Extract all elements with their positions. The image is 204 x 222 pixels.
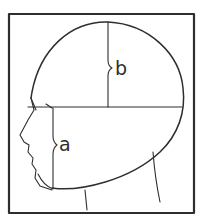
diagram-canvas: b a [0, 0, 204, 222]
label-b: b [115, 57, 127, 79]
brow-line [31, 98, 52, 110]
b-brace [108, 22, 112, 107]
label-a: a [59, 133, 71, 155]
a-brace [53, 108, 57, 188]
neck-back-line [153, 152, 160, 202]
head-outline [31, 22, 184, 189]
face-profile [20, 98, 52, 190]
neck-front-line [85, 190, 87, 210]
head-proportion-diagram: b a [0, 0, 204, 222]
jaw-line [38, 174, 53, 189]
